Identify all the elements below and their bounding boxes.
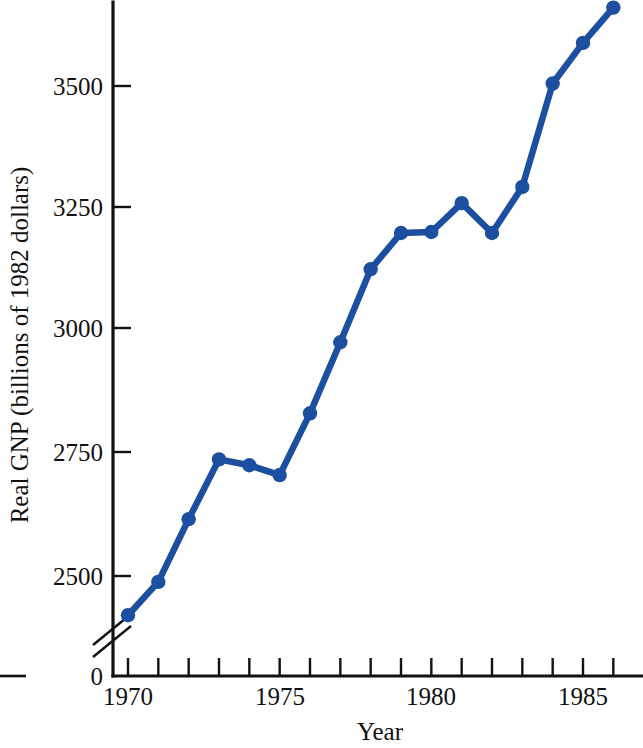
data-point-1972 <box>181 512 195 526</box>
x-tick-label-1980: 1980 <box>406 683 456 710</box>
chart-figure: 3500 3250 3000 2750 2500 0 1970 1975 198… <box>0 0 643 748</box>
y-tick-label-2500: 2500 <box>53 563 103 590</box>
data-point-1977 <box>333 335 347 349</box>
series-line-real-gnp <box>128 8 613 616</box>
gnp-line-chart: 3500 3250 3000 2750 2500 0 1970 1975 198… <box>0 0 643 748</box>
series-markers <box>121 0 621 622</box>
y-axis-title: Real GNP (billions of 1982 dollars) <box>6 167 34 524</box>
data-point-1985 <box>576 36 590 50</box>
y-tick-label-3250: 3250 <box>53 194 103 221</box>
data-point-1974 <box>242 458 256 472</box>
data-point-1978 <box>363 262 377 276</box>
y-tick-label-3000: 3000 <box>53 315 103 342</box>
y-tick-label-2750: 2750 <box>53 439 103 466</box>
x-tick-label-1985: 1985 <box>558 683 608 710</box>
y-axis-ticks <box>113 86 131 576</box>
data-point-1975 <box>272 468 286 482</box>
data-point-1979 <box>394 226 408 240</box>
data-point-1986 <box>606 0 620 14</box>
data-point-1982 <box>485 226 499 240</box>
data-point-1980 <box>424 225 438 239</box>
data-point-1970 <box>121 608 135 622</box>
x-axis-ticks <box>128 658 613 676</box>
y-axis-origin-label: 0 <box>91 663 104 690</box>
x-tick-label-1970: 1970 <box>103 683 153 710</box>
data-point-1983 <box>515 180 529 194</box>
data-point-1981 <box>454 196 468 210</box>
y-tick-label-3500: 3500 <box>53 73 103 100</box>
data-point-1971 <box>151 575 165 589</box>
data-point-1973 <box>212 452 226 466</box>
data-point-1976 <box>303 406 317 420</box>
data-point-1984 <box>545 76 559 90</box>
x-axis-title: Year <box>357 718 404 745</box>
x-tick-label-1975: 1975 <box>255 683 305 710</box>
